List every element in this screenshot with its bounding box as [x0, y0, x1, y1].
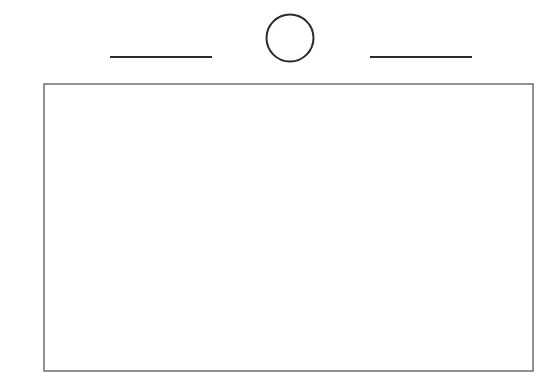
schematic-drawing: [0, 0, 559, 383]
main-rectangle: [44, 84, 533, 371]
figure-canvas: [0, 0, 559, 383]
